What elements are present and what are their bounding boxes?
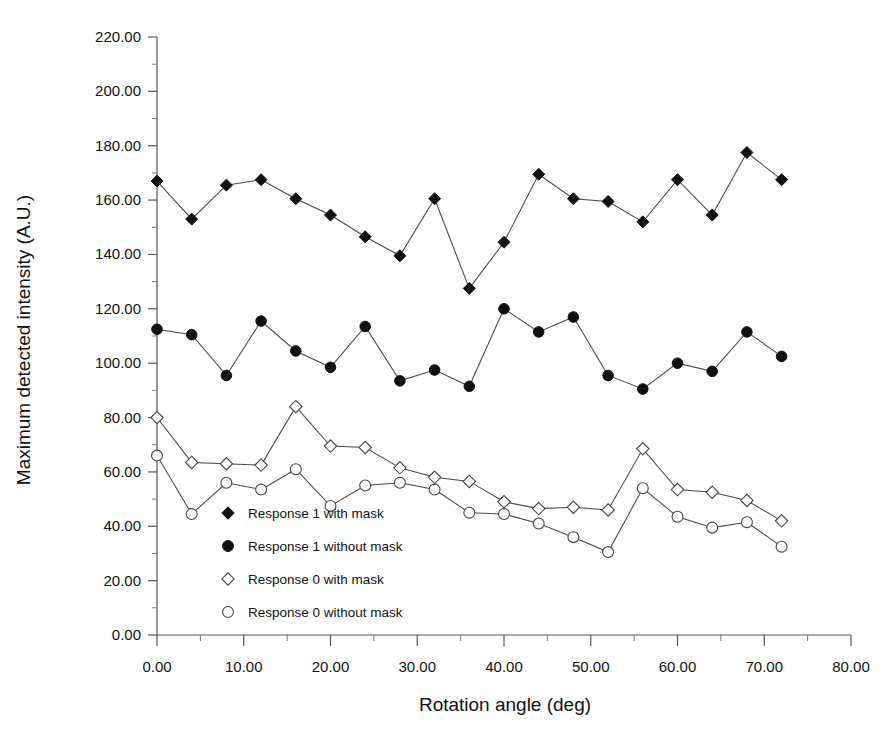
filled-circle-marker	[464, 381, 475, 392]
filled-circle-marker	[707, 366, 718, 377]
x-axis-title: Rotation angle (deg)	[419, 694, 591, 715]
open-diamond-marker	[498, 496, 510, 508]
open-circle-marker	[603, 547, 614, 558]
filled-circle-marker	[186, 329, 197, 340]
filled-circle-marker	[568, 312, 579, 323]
scatter-line-plot: 0.0010.0020.0030.0040.0050.0060.0070.008…	[0, 0, 893, 736]
open-circle-marker	[707, 522, 718, 533]
filled-circle-marker	[223, 541, 234, 552]
filled-circle-marker	[291, 346, 302, 357]
y-tick-label: 180.00	[95, 137, 141, 154]
open-diamond-marker	[151, 411, 163, 423]
chart-container: 0.0010.0020.0030.0040.0050.0060.0070.008…	[0, 0, 893, 736]
legend-item-0: Response 1 with mask	[222, 506, 384, 521]
y-tick-label: 20.00	[103, 572, 141, 589]
filled-diamond-marker	[637, 216, 649, 228]
open-diamond-marker	[706, 486, 718, 498]
open-circle-marker	[568, 532, 579, 543]
filled-diamond-marker	[429, 193, 441, 205]
y-tick-label: 160.00	[95, 191, 141, 208]
filled-circle-marker	[638, 384, 649, 395]
open-circle-marker	[152, 450, 163, 461]
open-diamond-marker	[567, 501, 579, 513]
open-diamond-marker	[220, 458, 232, 470]
open-circle-marker	[186, 509, 197, 520]
legend-item-label: Response 0 with mask	[248, 572, 384, 587]
chart-legend: Response 1 with maskResponse 1 without m…	[222, 506, 403, 620]
y-tick-label: 220.00	[95, 28, 141, 45]
filled-diamond-marker	[255, 174, 267, 186]
y-tick-label: 140.00	[95, 245, 141, 262]
series-line	[157, 456, 782, 552]
series-3	[152, 450, 788, 557]
x-tick-label: 70.00	[745, 658, 783, 675]
x-tick-label: 80.00	[832, 658, 870, 675]
filled-diamond-marker	[325, 209, 337, 221]
open-diamond-marker	[741, 494, 753, 506]
open-diamond-marker	[255, 459, 267, 471]
open-circle-marker	[360, 480, 371, 491]
series-1	[152, 304, 787, 395]
y-tick-label: 40.00	[103, 517, 141, 534]
legend-item-3: Response 0 without mask	[223, 605, 403, 620]
y-axis-ticks: 0.0020.0040.0060.0080.00100.00120.00140.…	[95, 28, 157, 643]
series-line	[157, 153, 782, 289]
filled-diamond-marker	[222, 507, 234, 519]
open-circle-marker	[741, 517, 752, 528]
x-tick-label: 20.00	[312, 658, 350, 675]
open-circle-marker	[256, 484, 267, 495]
open-circle-marker	[776, 541, 787, 552]
open-diamond-marker	[775, 515, 787, 527]
open-circle-marker	[394, 477, 405, 488]
filled-circle-marker	[360, 321, 371, 332]
x-tick-label: 0.00	[142, 658, 171, 675]
y-tick-label: 100.00	[95, 354, 141, 371]
open-diamond-marker	[602, 504, 614, 516]
filled-circle-marker	[776, 351, 787, 362]
y-tick-label: 60.00	[103, 463, 141, 480]
y-tick-label: 120.00	[95, 300, 141, 317]
legend-item-label: Response 0 without mask	[248, 605, 403, 620]
series-line	[157, 309, 782, 389]
open-circle-marker	[221, 477, 232, 488]
filled-diamond-marker	[359, 231, 371, 243]
filled-circle-marker	[221, 370, 232, 381]
open-circle-marker	[533, 518, 544, 529]
filled-diamond-marker	[741, 147, 753, 159]
filled-diamond-marker	[290, 193, 302, 205]
open-circle-marker	[429, 484, 440, 495]
filled-diamond-marker	[394, 250, 406, 262]
filled-diamond-marker	[498, 236, 510, 248]
x-tick-label: 60.00	[659, 658, 697, 675]
filled-diamond-marker	[463, 282, 475, 294]
open-circle-marker	[499, 509, 510, 520]
series-line	[157, 407, 782, 521]
legend-item-label: Response 1 with mask	[248, 506, 384, 521]
legend-item-1: Response 1 without mask	[223, 539, 403, 554]
open-circle-marker	[637, 483, 648, 494]
y-tick-label: 80.00	[103, 409, 141, 426]
open-diamond-marker	[463, 475, 475, 487]
open-circle-marker	[464, 507, 475, 518]
x-axis-ticks: 0.0010.0020.0030.0040.0050.0060.0070.008…	[142, 635, 869, 675]
filled-circle-marker	[325, 362, 336, 373]
filled-circle-marker	[742, 327, 753, 338]
filled-diamond-marker	[567, 193, 579, 205]
data-series-group	[151, 147, 788, 558]
filled-circle-marker	[256, 316, 267, 327]
y-axis-title: Maximum detected intensity (A.U.)	[13, 195, 34, 485]
filled-diamond-marker	[533, 168, 545, 180]
filled-circle-marker	[672, 358, 683, 369]
legend-item-2: Response 0 with mask	[222, 572, 384, 587]
x-tick-label: 10.00	[225, 658, 263, 675]
open-diamond-marker	[186, 456, 198, 468]
open-diamond-marker	[533, 502, 545, 514]
filled-circle-marker	[499, 304, 510, 315]
y-tick-label: 200.00	[95, 82, 141, 99]
filled-circle-marker	[152, 324, 163, 335]
x-tick-label: 40.00	[485, 658, 523, 675]
open-diamond-marker	[222, 573, 234, 585]
open-diamond-marker	[428, 471, 440, 483]
x-tick-label: 50.00	[572, 658, 610, 675]
filled-diamond-marker	[776, 174, 788, 186]
